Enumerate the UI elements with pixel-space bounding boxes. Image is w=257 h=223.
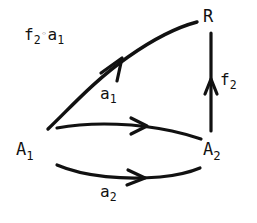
edge-label-a2-subscript: 2 [110, 190, 117, 204]
node-label-A2-subscript: 2 [213, 149, 220, 163]
node-label-A2: A2 [203, 141, 221, 162]
edge-label-f2-base: f [220, 70, 230, 89]
commutative-diagram: A1 A2 R a1 a2 f2 f2◦a1 [0, 0, 257, 223]
edge-label-a2-base: a [100, 182, 110, 201]
edge-label-a1: a1 [100, 86, 117, 106]
node-label-R-base: R [203, 6, 213, 26]
edge-label-a1-subscript: 1 [110, 92, 117, 106]
node-label-A2-base: A [203, 139, 213, 159]
edge-label-composite-base: f [24, 25, 34, 44]
edge-label-composite: f2◦a1 [24, 27, 64, 47]
node-label-A1: A1 [16, 141, 34, 162]
arrow-f2 [205, 33, 217, 131]
node-label-R: R [203, 8, 213, 25]
arrow-a2 [57, 165, 200, 185]
edge-label-a2: a2 [100, 184, 117, 204]
node-label-A1-subscript: 1 [26, 149, 33, 163]
arrow-composite-shaft [48, 22, 197, 129]
edge-label-composite-base2: a [48, 25, 58, 44]
edge-label-f2: f2 [220, 72, 237, 92]
composition-operator-icon: ◦ [41, 28, 48, 39]
edge-label-f2-subscript: 2 [230, 78, 237, 92]
arrow-a1-shaft [57, 124, 201, 139]
edge-label-a1-base: a [100, 84, 110, 103]
arrow-a1 [57, 118, 201, 139]
arrow-composite-f2-a1 [48, 22, 197, 129]
edge-label-composite-subscript2: 1 [57, 33, 64, 47]
edge-label-composite-subscript: 2 [34, 33, 41, 47]
node-label-A1-base: A [16, 139, 26, 159]
